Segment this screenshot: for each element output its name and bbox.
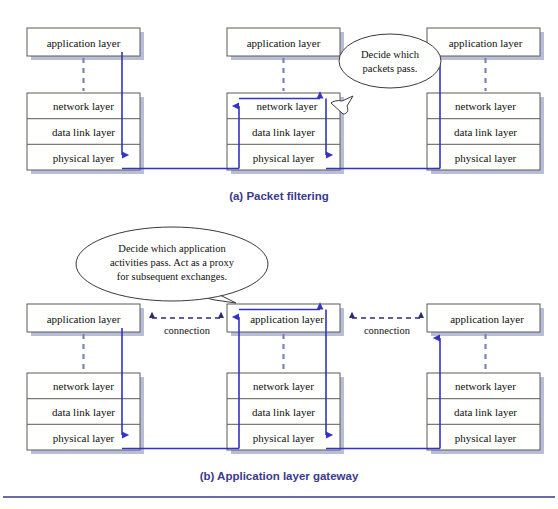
panel-b-callout: Decide which application activities pass… xyxy=(76,227,268,303)
layer-label-network: network layer xyxy=(253,380,314,392)
layer-label-network: network layer xyxy=(257,100,318,112)
panel-b-left-host: application layer network layer data lin… xyxy=(27,304,144,454)
layer-label-physical: physical layer xyxy=(253,432,315,444)
layer-label-network: network layer xyxy=(455,100,516,112)
panel-a-caption: (a) Packet filtering xyxy=(229,190,329,202)
callout-line-2: packets pass. xyxy=(363,63,418,74)
layer-label-application: application layer xyxy=(47,37,121,49)
layer-label-data-link: data link layer xyxy=(252,406,315,418)
callout-line-2: activities pass. Act as a proxy xyxy=(110,257,235,268)
layer-label-network: network layer xyxy=(455,380,516,392)
layer-label-physical: physical layer xyxy=(53,152,115,164)
layer-label-physical: physical layer xyxy=(53,432,115,444)
panel-b-caption: (b) Application layer gateway xyxy=(200,470,359,482)
layer-label-data-link: data link layer xyxy=(52,126,115,138)
layer-label-application: application layer xyxy=(247,37,321,49)
panel-b-connection-right: connection xyxy=(352,318,421,336)
layer-label-data-link: data link layer xyxy=(454,126,517,138)
layer-label-data-link: data link layer xyxy=(252,126,315,138)
panel-b-right-host: application layer network layer data lin… xyxy=(427,304,544,454)
panel-a-left-host: application layer network layer data lin… xyxy=(27,28,144,174)
callout-line-3: for subsequent exchanges. xyxy=(117,271,228,282)
callout-bubble xyxy=(339,34,441,88)
panel-a: application layer network layer data lin… xyxy=(27,28,544,202)
layer-label-application: application layer xyxy=(250,313,324,325)
layer-label-application: application layer xyxy=(449,37,523,49)
connection-label-left: connection xyxy=(164,325,211,336)
layer-label-physical: physical layer xyxy=(455,432,517,444)
panel-b-connection-left: connection xyxy=(152,318,221,336)
panel-b: application layer network layer data lin… xyxy=(27,227,544,482)
layer-label-network: network layer xyxy=(53,100,114,112)
layer-label-application: application layer xyxy=(450,313,524,325)
panel-a-callout: Decide which packets pass. xyxy=(331,34,441,114)
layer-label-physical: physical layer xyxy=(253,152,315,164)
firewall-architecture-figure: application layer network layer data lin… xyxy=(0,0,558,509)
layer-label-data-link: data link layer xyxy=(454,406,517,418)
layer-label-application: application layer xyxy=(47,313,121,325)
layer-label-network: network layer xyxy=(53,380,114,392)
callout-line-1: Decide which xyxy=(361,49,420,60)
callout-line-1: Decide which application xyxy=(118,243,226,254)
panel-a-right-host: application layer network layer data lin… xyxy=(427,28,544,174)
layer-label-physical: physical layer xyxy=(455,152,517,164)
layer-label-data-link: data link layer xyxy=(52,406,115,418)
connection-label-right: connection xyxy=(364,325,411,336)
